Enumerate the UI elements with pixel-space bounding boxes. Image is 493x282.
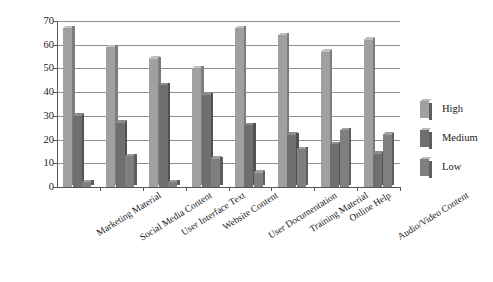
legend-swatch-face [420,130,429,147]
bar-high [149,59,158,187]
bar-front-face [383,135,392,187]
bar-front-face [364,40,373,187]
legend-swatch-side [429,103,432,120]
bar-front-face [63,28,72,187]
bar-side-face [220,157,223,185]
y-axis-tick-mark [53,21,57,22]
bar-group [321,21,349,187]
legend-swatch-high [420,101,429,118]
bar-low [125,156,134,187]
bar-side-face [263,171,266,185]
figure-caption [0,274,493,282]
x-axis-tick-mark [186,187,187,191]
x-axis-tick-mark [229,187,230,191]
bar-group [235,21,263,187]
bar-front-face [297,149,306,187]
legend-label: High [442,104,463,115]
legend-swatch-face [420,159,429,176]
x-axis-tick-mark [271,187,272,191]
bar-front-face [373,154,382,187]
bar-front-face [211,159,220,187]
bar-high [364,40,373,187]
bar-group [63,21,91,187]
bar-low [383,135,392,187]
legend-swatch-low [420,159,429,176]
bar-low [82,182,91,187]
bar-medium [244,125,253,187]
legend-swatch-side [429,161,432,178]
bar-group [106,21,134,187]
bar-front-face [244,125,253,187]
bar-side-face [349,128,352,185]
x-axis-tick-mark [400,187,401,191]
legend-swatch-face [420,101,429,118]
bar-group [192,21,220,187]
bar-side-face [91,180,94,185]
legend-swatch-medium [420,130,429,147]
bar-low [168,182,177,187]
bar-low [254,173,263,187]
bar-high [278,35,287,187]
bar-front-face [202,95,211,187]
legend-swatch-side [429,132,432,149]
bar-front-face [235,28,244,187]
bar-low [340,130,349,187]
bar-low [211,159,220,187]
x-axis-category-label: Audio/Video Content [396,191,470,242]
bar-medium [287,135,296,187]
bar-high [235,28,244,187]
bar-front-face [340,130,349,187]
bar-side-face [168,83,171,185]
bar-high [321,52,330,187]
bar-high [63,28,72,187]
bar-front-face [125,156,134,187]
legend-label: Medium [442,133,478,144]
y-axis-tick-mark [53,92,57,93]
legend-label: Low [442,162,461,173]
bar-group [149,21,177,187]
bar-medium [330,144,339,187]
y-axis-tick-mark [53,45,57,46]
bar-medium [373,154,382,187]
bar-group [278,21,306,187]
bar-front-face [321,52,330,187]
bar-front-face [82,182,91,187]
bar-low [297,149,306,187]
x-axis-tick-mark [100,187,101,191]
bar-high [106,47,115,187]
bar-high [192,68,201,187]
bar-front-face [192,68,201,187]
y-axis-tick-mark [53,140,57,141]
bar-medium [116,123,125,187]
bar-front-face [149,59,158,187]
bar-front-face [116,123,125,187]
bar-medium [202,95,211,187]
bar-group [364,21,392,187]
y-axis-tick-mark [53,163,57,164]
x-axis-tick-mark [143,187,144,191]
bar-front-face [106,47,115,187]
bar-front-face [287,135,296,187]
plot-area: 010203040506070 [57,21,400,187]
bar-side-face [306,147,309,185]
bar-front-face [330,144,339,187]
bar-front-face [168,182,177,187]
bar-side-face [82,114,85,185]
y-axis-tick-mark [53,116,57,117]
x-axis-tick-mark [314,187,315,191]
x-axis-tick-mark [357,187,358,191]
bar-front-face [73,116,82,187]
y-axis-tick-mark [53,187,57,188]
bar-front-face [278,35,287,187]
bar-side-face [392,133,395,185]
bar-side-face [177,180,180,185]
bar-side-face [134,154,137,185]
bar-front-face [254,173,263,187]
y-axis-tick-mark [53,68,57,69]
bar-medium [73,116,82,187]
bar-medium [159,85,168,187]
chart-figure: 010203040506070 HighMediumLow Marketing … [0,0,493,282]
bar-front-face [159,85,168,187]
